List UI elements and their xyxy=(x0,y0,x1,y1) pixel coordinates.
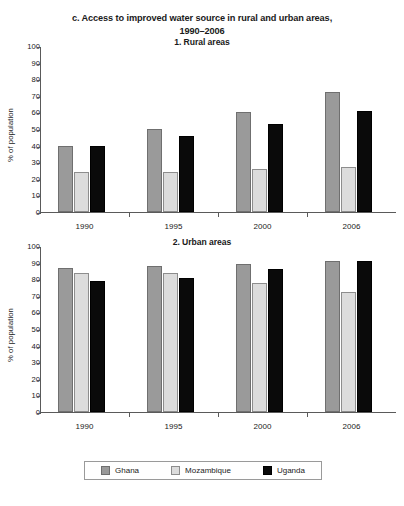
legend-label: Mozambique xyxy=(185,466,231,475)
bar-ghana-2006 xyxy=(325,261,340,412)
y-axis-tick-mark xyxy=(37,413,41,414)
bar-uganda-2006 xyxy=(357,261,372,412)
x-axis-separator xyxy=(307,213,308,217)
x-axis-separator xyxy=(307,413,308,417)
x-axis-tick-label: 2000 xyxy=(254,222,272,231)
y-axis-tick-label: 70 xyxy=(10,293,40,301)
x-axis-tick-label: 1995 xyxy=(165,422,183,431)
plot-area-rural: % of population 100908070605040302010019… xyxy=(40,47,396,213)
bar-uganda-1990 xyxy=(90,146,105,212)
ghana-swatch xyxy=(101,466,110,475)
bar-uganda-1990 xyxy=(90,281,105,412)
bar-group xyxy=(129,46,218,212)
bar-mozambique-2006 xyxy=(341,167,356,212)
x-axis-tick-label: 1990 xyxy=(76,222,94,231)
bar-uganda-2006 xyxy=(357,111,372,212)
bar-group xyxy=(307,46,396,212)
y-axis-tick-label: 100 xyxy=(10,43,40,51)
x-axis-separator xyxy=(218,213,219,217)
y-axis-tick-label: 100 xyxy=(10,243,40,251)
uganda-swatch xyxy=(263,466,272,475)
y-axis-tick-label: 50 xyxy=(10,326,40,334)
y-axis-tick-label: 80 xyxy=(10,76,40,84)
y-axis-tick-label: 10 xyxy=(10,193,40,201)
x-axis-tick-label: 2006 xyxy=(343,222,361,231)
chart-legend: GhanaMozambiqueUganda xyxy=(84,461,322,480)
y-axis-tick-label: 30 xyxy=(10,359,40,367)
legend-item: Mozambique xyxy=(171,466,231,475)
x-axis-tick-label: 1990 xyxy=(76,422,94,431)
bar-mozambique-2000 xyxy=(252,283,267,412)
x-axis-separator xyxy=(129,413,130,417)
y-axis-tick-label: 20 xyxy=(10,176,40,184)
mozambique-swatch xyxy=(171,466,180,475)
figure-title-line-2: 1990–2006 xyxy=(34,25,370,38)
legend-item: Ghana xyxy=(101,466,139,475)
y-axis-tick-label: 0 xyxy=(10,209,40,217)
x-axis-tick-label: 2006 xyxy=(343,422,361,431)
bar-mozambique-2000 xyxy=(252,169,267,212)
figure-title-line-1: c. Access to improved water source in ru… xyxy=(34,12,370,25)
figure-title: c. Access to improved water source in ru… xyxy=(0,0,404,37)
bar-mozambique-1995 xyxy=(163,273,178,412)
bar-ghana-1995 xyxy=(147,129,162,212)
bar-group xyxy=(218,246,307,412)
bar-group xyxy=(129,246,218,412)
bar-group xyxy=(218,46,307,212)
bar-group xyxy=(40,46,129,212)
x-axis-tick-label: 2000 xyxy=(254,422,272,431)
y-axis-tick-label: 60 xyxy=(10,310,40,318)
y-axis-tick-label: 0 xyxy=(10,409,40,417)
bar-uganda-2000 xyxy=(268,269,283,412)
plot-area-urban: % of population 100908070605040302010019… xyxy=(40,247,396,413)
bar-group xyxy=(40,246,129,412)
chart-panel-rural: 1. Rural areas % of population 100908070… xyxy=(0,37,404,237)
bar-uganda-1995 xyxy=(179,136,194,212)
legend-label: Uganda xyxy=(277,466,305,475)
y-axis-tick-label: 70 xyxy=(10,93,40,101)
bar-group xyxy=(307,246,396,412)
bar-uganda-1995 xyxy=(179,278,194,412)
legend-item: Uganda xyxy=(263,466,305,475)
bar-mozambique-1995 xyxy=(163,172,178,212)
y-axis-tick-label: 90 xyxy=(10,60,40,68)
y-axis-tick-label: 80 xyxy=(10,276,40,284)
bar-ghana-2000 xyxy=(236,264,251,412)
bar-mozambique-2006 xyxy=(341,292,356,412)
y-axis-tick-label: 40 xyxy=(10,343,40,351)
y-axis-tick-label: 40 xyxy=(10,143,40,151)
y-axis-tick-mark xyxy=(37,213,41,214)
y-axis-tick-label: 50 xyxy=(10,126,40,134)
y-axis-tick-label: 60 xyxy=(10,110,40,118)
x-axis-separator xyxy=(218,413,219,417)
bar-ghana-1995 xyxy=(147,266,162,412)
bar-uganda-2000 xyxy=(268,124,283,212)
bar-mozambique-1990 xyxy=(74,273,89,412)
y-axis-tick-label: 20 xyxy=(10,376,40,384)
bar-ghana-2006 xyxy=(325,92,340,212)
x-axis-tick-label: 1995 xyxy=(165,222,183,231)
bar-mozambique-1990 xyxy=(74,172,89,212)
bar-ghana-2000 xyxy=(236,112,251,212)
legend-label: Ghana xyxy=(115,466,139,475)
y-axis-tick-label: 90 xyxy=(10,260,40,268)
chart-panel-urban: 2. Urban areas % of population 100908070… xyxy=(0,237,404,433)
y-axis-tick-label: 30 xyxy=(10,159,40,167)
y-axis-tick-label: 10 xyxy=(10,393,40,401)
x-axis-separator xyxy=(129,213,130,217)
bar-ghana-1990 xyxy=(58,268,73,412)
bar-ghana-1990 xyxy=(58,146,73,212)
